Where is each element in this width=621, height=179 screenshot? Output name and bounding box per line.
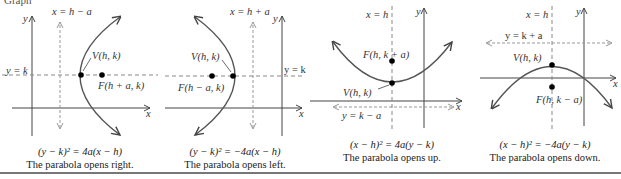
caption-text: The parabola opens up. [317, 151, 467, 164]
directrix-label: x = h − a [51, 6, 92, 17]
vertex-point [549, 62, 555, 68]
panel-opens-up: x = h F(h, k + a) V(h, k) y = k − a x y [310, 6, 462, 130]
vertex-label: V(h, k) [343, 87, 372, 99]
vertex-point [230, 73, 236, 79]
bottom-rule [0, 172, 621, 174]
caption-text: The parabola opens left. [160, 158, 310, 171]
panel-opens-left: x = h + a y = k V(h, k) F(h − a, k) x y [165, 6, 306, 136]
vertex-leader [83, 58, 91, 71]
caption-text: The parabola opens right. [5, 158, 155, 171]
caption-opens-right: (y − k)² = 4a(x − h) The parabola opens … [5, 145, 155, 171]
directrix-label: x = h + a [229, 6, 270, 17]
y-axis-label: y [415, 6, 421, 17]
focus-label: F(h − a, k) [177, 82, 225, 94]
x-axis-label: x [145, 108, 151, 119]
caption-opens-left: (y − k)² = −4a(x − h) The parabola opens… [160, 145, 310, 171]
axis-label: x = h [525, 9, 548, 20]
vertex-point [78, 72, 84, 78]
focus-point [549, 84, 555, 90]
vertex-point [389, 80, 395, 86]
vertex-label: V(h, k) [191, 51, 220, 63]
x-axis-label: x [455, 101, 461, 112]
axis-label: x = h [365, 9, 388, 20]
panel-opens-down: x = h y = k + a V(h, k) F(h, k − a) x y [480, 6, 618, 130]
equation: (x − h)² = −4a(y − k) [470, 138, 620, 151]
y-axis-label: y [575, 6, 581, 17]
x-axis-label: x [612, 78, 618, 89]
equation: (y − k)² = −4a(x − h) [160, 145, 310, 158]
caption-opens-up: (x − h)² = 4a(y − k) The parabola opens … [317, 138, 467, 164]
directrix-label: y = k − a [341, 110, 381, 121]
y-axis-label: y [22, 13, 28, 24]
vertex-leader [378, 85, 389, 89]
focus-label: F(h, k − a) [535, 94, 583, 106]
axis-label: y = k [284, 64, 306, 75]
caption-opens-down: (x − h)² = −4a(y − k) The parabola opens… [470, 138, 620, 164]
focus-point [99, 72, 105, 78]
caption-text: The parabola opens down. [470, 151, 620, 164]
equation: (x − h)² = 4a(y − k) [317, 138, 467, 151]
focus-label: F(h, k + a) [362, 49, 410, 61]
vertex-label: V(h, k) [513, 52, 542, 64]
y-axis-label: y [272, 13, 278, 24]
axis-label: y = k [5, 65, 28, 76]
vertex-leader [222, 60, 231, 72]
focus-point [209, 73, 215, 79]
equation: (y − k)² = 4a(x − h) [5, 145, 155, 158]
x-axis-label: x [298, 108, 304, 119]
focus-label: F(h + a, k) [97, 80, 145, 92]
panel-opens-right: x = h − a y = k V(h, k) F(h + a, k) x y [2, 6, 158, 136]
vertex-label: V(h, k) [92, 50, 121, 62]
directrix-label: y = k + a [505, 30, 543, 41]
